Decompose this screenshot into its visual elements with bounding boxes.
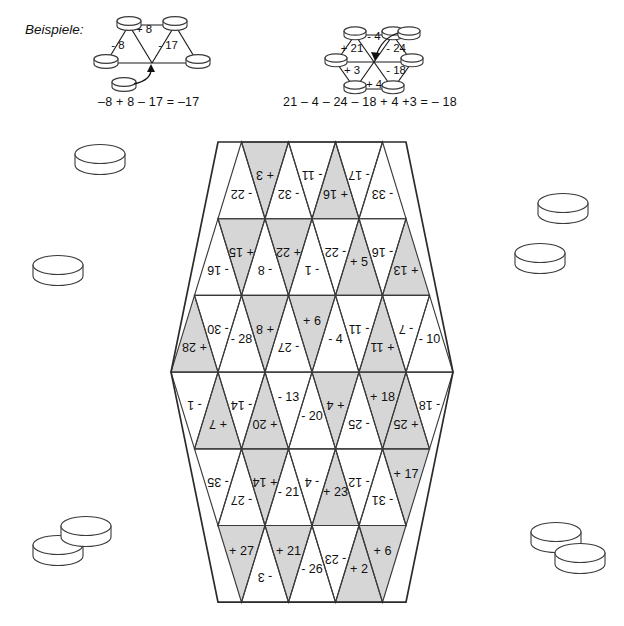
chip-bottom-right-b xyxy=(555,544,605,574)
loose-chips-layer xyxy=(0,0,624,626)
chip-top-left xyxy=(75,145,125,175)
worksheet-page: Beispiele: - 8+ 8- 17- 4+ 21- 24+ 3- 18+… xyxy=(0,0,624,626)
chip-right xyxy=(515,244,565,274)
chip-upper-right xyxy=(538,194,588,224)
chip-mid-left xyxy=(33,256,83,286)
chip-bottom-left-b xyxy=(61,517,111,547)
